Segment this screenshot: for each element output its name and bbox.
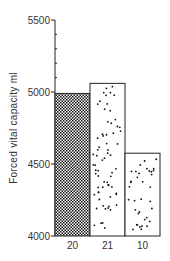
bars <box>55 83 160 236</box>
y-tick-label: 5000 <box>28 87 51 98</box>
y-tick-label: 4000 <box>28 231 51 242</box>
bar-21 <box>90 83 125 236</box>
x-tick-label: 21 <box>102 240 114 251</box>
x-tick-label: 10 <box>137 240 149 251</box>
x-tick-label: 20 <box>67 240 79 251</box>
y-tick-label: 4500 <box>28 159 51 170</box>
y-axis: 4000450050005500 <box>28 15 57 242</box>
bar-10 <box>125 153 160 236</box>
bar-chart: 4000450050005500 Forced vital capacity m… <box>0 0 170 261</box>
x-axis-tick-labels: 202110 <box>67 240 149 251</box>
bar-20 <box>55 93 90 236</box>
y-axis-label: Forced vital capacity ml <box>8 72 19 184</box>
y-tick-label: 5500 <box>28 15 51 26</box>
y-axis-tick-labels: 4000450050005500 <box>28 15 51 242</box>
